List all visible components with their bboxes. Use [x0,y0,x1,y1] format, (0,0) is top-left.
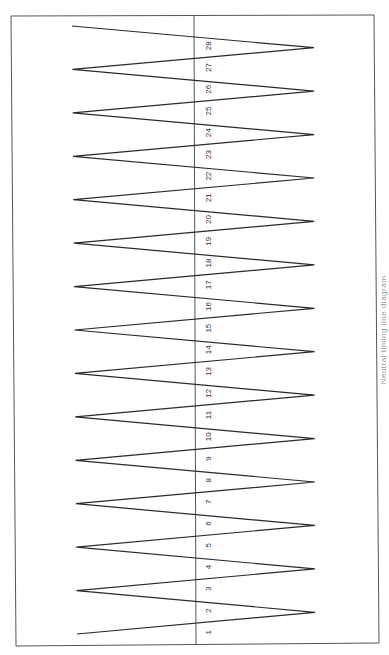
step-label: 13 [204,367,213,376]
step-label: 28 [204,41,213,50]
step-label: 9 [204,456,213,461]
step-label: 14 [204,345,213,354]
diagram-caption: Neutral timing line diagram [379,276,388,385]
step-label: 1 [205,629,214,634]
step-label: 3 [204,586,213,591]
step-label: 7 [204,499,213,504]
step-label: 17 [204,280,213,289]
step-label: 5 [204,543,213,548]
step-label: 27 [204,63,213,72]
step-label: 23 [204,149,213,158]
step-label: 16 [204,301,213,310]
step-label: 10 [204,432,213,441]
step-label: 24 [204,128,213,137]
step-label: 11 [204,410,213,419]
step-label: 20 [204,215,213,224]
step-label: 8 [204,477,213,482]
step-label: 19 [204,236,213,245]
step-label: 26 [204,84,213,93]
step-label: 4 [204,564,213,569]
step-label: 21 [204,193,213,202]
step-label: 25 [204,106,213,115]
step-label: 6 [204,521,213,526]
zigzag-line [72,26,315,634]
zigzag-diagram: 1234567891011121314151617181920212223242… [0,0,389,655]
step-label: 22 [204,171,213,180]
step-labels: 1234567891011121314151617181920212223242… [204,41,214,635]
step-label: 12 [204,388,213,397]
step-label: 18 [204,258,213,267]
label-divider-line [194,16,196,646]
step-label: 2 [204,608,213,613]
step-label: 15 [204,323,213,332]
